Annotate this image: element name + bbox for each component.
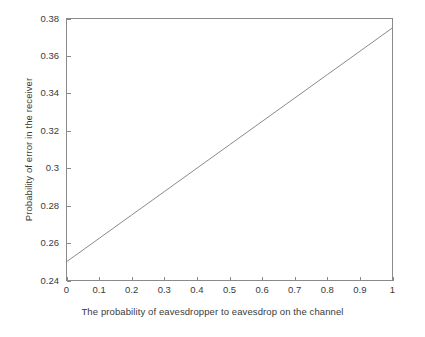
x-axis-ticks: [68, 277, 394, 281]
y-axis-ticks: [67, 20, 71, 282]
plot-frame: [67, 19, 393, 281]
chart-figure: Probability of error in the receiver 0.2…: [0, 0, 425, 337]
plot-area: [0, 0, 425, 337]
data-series-group: [67, 28, 393, 262]
data-line-0: [67, 28, 393, 262]
